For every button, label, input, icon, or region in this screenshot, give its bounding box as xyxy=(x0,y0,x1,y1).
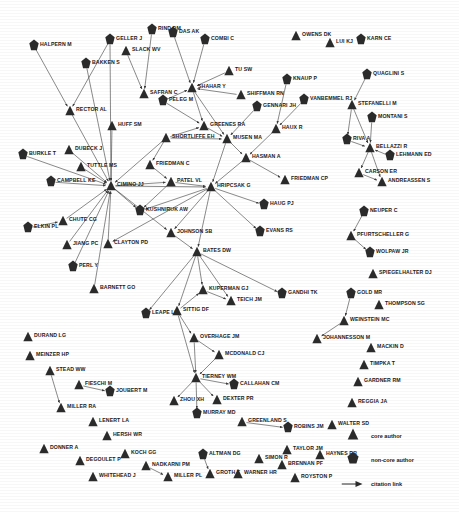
triangle-core-author-icon xyxy=(374,296,385,314)
node-label: JIANG PC xyxy=(73,240,98,246)
triangle-core-author-icon xyxy=(236,86,247,104)
pentagon-non-core-author-icon xyxy=(385,147,396,165)
legend-label-citation-link: citation link xyxy=(371,481,402,487)
node-label: JOHNSON SB xyxy=(177,228,212,234)
node-label: WOLPAW JR xyxy=(376,248,409,254)
pentagon-non-core-author-icon xyxy=(346,285,357,303)
triangle-core-author-icon xyxy=(353,373,364,391)
citation-link xyxy=(207,292,226,299)
triangle-core-author-icon xyxy=(212,391,223,409)
node-label: DUBECK J xyxy=(75,145,102,151)
pentagon-non-core-author-icon xyxy=(282,71,293,89)
node-label: DURAND LG xyxy=(34,332,66,338)
citation-link xyxy=(73,44,108,106)
triangle-core-author-icon xyxy=(88,413,99,431)
citation-link xyxy=(111,131,112,181)
node-label: COMBI C xyxy=(211,35,234,41)
pentagon-non-core-author-icon xyxy=(158,92,169,110)
citation-link xyxy=(193,44,203,82)
node-label: MUSEN MA xyxy=(233,134,262,140)
node-label: SHIFFMAN RN xyxy=(247,90,284,96)
citation-link xyxy=(144,185,168,207)
triangle-core-author-icon xyxy=(291,27,302,45)
node-label: NEUPER C xyxy=(370,207,398,213)
pentagon-non-core-author-icon xyxy=(255,223,266,241)
pentagon-non-core-author-icon xyxy=(147,21,158,39)
node-label: PFURTSCHELLER G xyxy=(357,231,409,237)
node-label: MURRAY MD xyxy=(203,409,236,415)
pentagon-non-core-author-icon xyxy=(367,109,378,127)
node-label: JOUBERT M xyxy=(116,387,147,393)
citation-link xyxy=(213,143,226,182)
pentagon-non-core-author-icon xyxy=(23,219,34,237)
pentagon-non-core-author-icon xyxy=(29,37,40,55)
node-label: GREENES RA xyxy=(210,121,245,127)
node-label: GARDNER RM xyxy=(364,377,401,383)
triangle-core-author-icon xyxy=(214,346,225,364)
triangle-core-author-icon xyxy=(139,85,150,103)
triangle-core-author-icon xyxy=(315,446,326,464)
node-label: SHAHAR Y xyxy=(198,83,226,89)
pentagon-non-core-author-icon xyxy=(105,31,116,49)
pentagon-non-core-author-icon xyxy=(198,446,209,464)
triangle-core-author-icon xyxy=(271,120,282,138)
node-label: RECTOR AL xyxy=(76,106,107,112)
node-label: BARNETT GO xyxy=(100,284,135,290)
triangle-core-author-icon xyxy=(198,281,209,299)
citation-link xyxy=(128,55,142,89)
triangle-core-author-icon xyxy=(205,465,216,483)
triangle-core-author-icon xyxy=(169,392,180,410)
node-label: KUSHNIRUK AW xyxy=(146,206,188,212)
citation-link xyxy=(363,175,377,180)
citation-link xyxy=(114,189,135,207)
triangle-core-author-icon xyxy=(103,235,114,253)
triangle-core-author-icon xyxy=(199,117,210,135)
node-label: MILLER PL xyxy=(174,472,202,478)
node-label: GENNARI JH xyxy=(263,102,296,108)
triangle-core-author-icon xyxy=(56,399,67,417)
node-label: KOCH GG xyxy=(131,449,157,455)
pentagon-non-core-author-icon xyxy=(252,98,263,116)
pentagon-non-core-author-icon xyxy=(259,196,270,214)
node-label: NADKARNI PM xyxy=(152,461,190,467)
citation-link xyxy=(150,468,163,475)
node-label: DEXTER PR xyxy=(223,395,254,401)
citation-link xyxy=(214,190,256,228)
pentagon-non-core-author-icon xyxy=(135,202,146,220)
triangle-core-author-icon xyxy=(65,102,76,120)
node-label: TUTTLE MS xyxy=(87,162,117,168)
node-label: CAMPBELL KE xyxy=(57,177,95,183)
pentagon-non-core-author-icon xyxy=(229,376,240,394)
node-label: ALTMAN DG xyxy=(209,450,241,456)
triangle-core-author-icon xyxy=(62,236,73,254)
node-label: MEINZER HP xyxy=(36,351,69,357)
triangle-core-author-icon xyxy=(120,445,131,463)
triangle-core-author-icon xyxy=(346,227,357,245)
legend-item-core-author: core author xyxy=(345,424,453,448)
triangle-core-author-icon xyxy=(280,171,291,189)
node-label: CALLAHAN CM xyxy=(240,380,279,386)
node-label: EVANS RS xyxy=(266,227,293,233)
triangle-core-author-icon xyxy=(102,427,113,445)
legend: core author non-core author citation lin… xyxy=(345,424,453,496)
node-label: GREENLAND S xyxy=(248,417,287,423)
node-label: HASMAN A xyxy=(252,153,281,159)
node-label: ZHOU XH xyxy=(180,396,204,402)
node-label: FRIEDMAN C xyxy=(156,160,190,166)
citation-link xyxy=(174,37,190,83)
triangle-core-author-icon xyxy=(192,243,203,261)
triangle-core-author-icon xyxy=(377,173,388,191)
pentagon-non-core-author-icon xyxy=(359,203,370,221)
pentagon-non-core-author-icon xyxy=(18,146,29,164)
node-label: PELEG M xyxy=(169,96,193,102)
node-label: WHITEHEAD J xyxy=(99,472,136,478)
triangle-core-author-icon xyxy=(226,292,237,310)
node-label: HRIPCSAK G xyxy=(217,182,251,188)
node-label: PERL Y xyxy=(79,262,98,268)
node-label: SITTIG DF xyxy=(183,306,209,312)
node-label: DAS AK xyxy=(179,28,199,34)
pentagon-non-core-author-icon xyxy=(277,285,288,303)
citation-link xyxy=(198,341,215,352)
node-label: MONTANI S xyxy=(378,113,408,119)
node-label: HUFF SM xyxy=(118,121,142,127)
